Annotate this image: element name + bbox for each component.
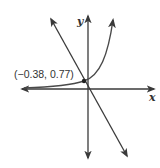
graph-diagram: (−0.38, 0.77) y x: [0, 0, 160, 168]
y-axis-label: y: [76, 15, 85, 28]
intersection-label: (−0.38, 0.77): [14, 68, 74, 80]
linear-function-line: [51, 19, 127, 156]
intersection-point: [82, 79, 86, 83]
x-axis-label: x: [148, 91, 156, 104]
